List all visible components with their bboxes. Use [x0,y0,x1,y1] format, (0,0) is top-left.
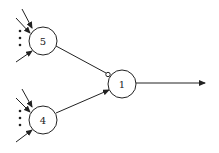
edge-5-to-1 [56,46,110,77]
input-arrow [22,89,32,107]
node-5: 5 [29,27,57,55]
ellipsis-dot [19,117,22,120]
node-label: 4 [40,115,46,126]
ellipsis-dot [19,30,22,33]
ellipsis-dot [19,110,22,113]
edge-4-to-1 [56,90,109,113]
ellipsis-dot [19,124,22,127]
input-arrow [16,51,32,62]
node-label: 5 [40,36,46,47]
input-arrow [16,130,32,142]
inhibitory-synapse-icon [106,72,110,76]
ellipsis-dot [19,37,22,40]
node-4: 4 [29,106,57,134]
node-label: 1 [119,79,125,90]
ellipsis-dot [19,44,22,47]
node-1: 1 [108,70,136,98]
network-diagram: 5 4 1 [0,0,219,153]
input-arrow [22,9,32,28]
